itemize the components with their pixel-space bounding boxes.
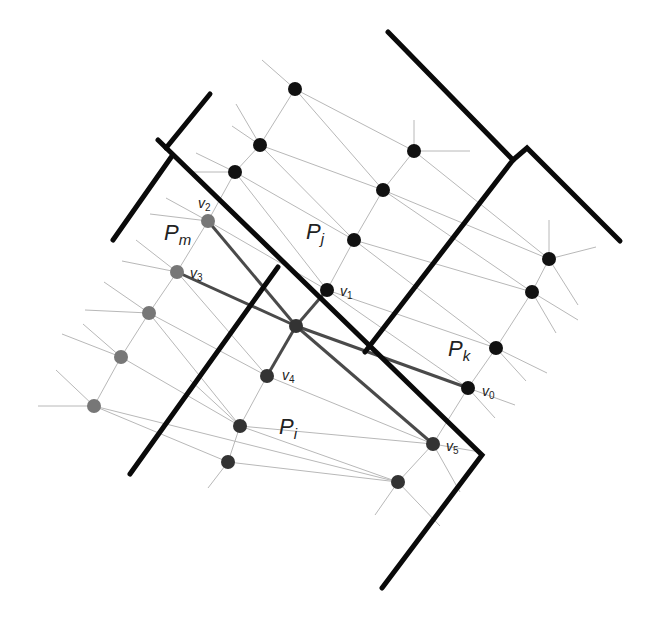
stub-edge (236, 104, 260, 145)
graph-edge (94, 406, 398, 482)
node-k2 (525, 285, 539, 299)
graph-edge (414, 151, 549, 259)
stub-edge (532, 292, 556, 333)
node-i3 (391, 475, 405, 489)
region-label-Pj: Pj (306, 221, 324, 246)
graph-edge (240, 426, 433, 444)
partition-diagram (0, 0, 658, 623)
stub-edge (122, 261, 177, 272)
partition-boundaries (113, 32, 620, 588)
boundary-line (388, 32, 513, 160)
graph-nodes (87, 82, 556, 489)
node-c (289, 319, 303, 333)
node-v1 (320, 283, 334, 297)
stub-edge (104, 282, 149, 313)
node-j3 (228, 165, 242, 179)
node-m2 (114, 350, 128, 364)
vertex-label-v5: v5 (446, 439, 459, 456)
graph-edge (260, 89, 295, 145)
stub-edge (85, 310, 149, 313)
graph-edge (496, 292, 532, 348)
graph-edge (228, 462, 398, 482)
graph-edge (354, 190, 383, 240)
node-j5 (376, 183, 390, 197)
node-m1 (142, 306, 156, 320)
graph-edge (177, 272, 267, 376)
boundary-line (513, 148, 620, 241)
stub-edge (549, 259, 578, 305)
region-label-Pk: Pk (448, 338, 470, 363)
node-v4 (260, 369, 274, 383)
node-m3 (87, 399, 101, 413)
stub-edge (496, 348, 547, 373)
node-k1 (542, 252, 556, 266)
vertex-label-v1: v1 (340, 284, 353, 301)
path-edge (296, 290, 327, 326)
node-v0 (461, 381, 475, 395)
vertex-label-v0: v0 (482, 384, 495, 401)
stub-edge (150, 214, 208, 221)
graph-edge (354, 240, 496, 348)
boundary-line (166, 94, 210, 148)
graph-edge (149, 313, 240, 426)
region-label-Pi: Pi (279, 416, 297, 441)
node-j1 (288, 82, 302, 96)
vertex-label-v4: v4 (282, 368, 295, 385)
stub-edge (549, 247, 596, 259)
path-edges (177, 221, 468, 444)
node-v5 (426, 437, 440, 451)
node-j6 (347, 233, 361, 247)
graph-edge (468, 348, 496, 388)
graph-edge (295, 89, 383, 190)
node-j2 (253, 138, 267, 152)
node-i1 (233, 419, 247, 433)
region-label-Pm: Pm (164, 222, 191, 247)
stub-edge (190, 380, 240, 426)
path-edge (208, 221, 296, 326)
graph-edge (295, 89, 414, 151)
graph-edge (94, 357, 121, 406)
graph-edge (240, 426, 398, 482)
stub-edge (62, 334, 121, 357)
node-i2 (221, 455, 235, 469)
thin-graph-edges (94, 89, 549, 482)
node-v2 (201, 214, 215, 228)
graph-edge (149, 272, 177, 313)
graph-edge (121, 313, 149, 357)
vertex-label-v3: v3 (190, 266, 203, 283)
node-k3 (489, 341, 503, 355)
graph-edge (260, 145, 383, 190)
node-j4 (407, 144, 421, 158)
graph-edge (121, 357, 240, 426)
node-v3 (170, 265, 184, 279)
graph-edge (383, 190, 532, 292)
vertex-label-v2: v2 (198, 196, 211, 213)
graph-edge (398, 444, 433, 482)
stub-edge (532, 292, 578, 320)
graph-edge (240, 376, 267, 426)
stub-edge (83, 324, 121, 357)
graph-edge (383, 151, 414, 190)
stub-edge (56, 370, 94, 406)
